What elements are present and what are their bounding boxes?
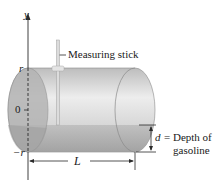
- length-dimension: [29, 152, 135, 170]
- gasoline-tank-diagram: y r 0 −r Measuring stick L d = Depth of …: [0, 0, 219, 182]
- tick-label-neg-r: −r: [13, 146, 25, 158]
- length-label: L: [74, 154, 81, 169]
- arrow-down-icon: [149, 146, 153, 151]
- tick-label-zero: 0: [15, 103, 21, 115]
- tick-label-r: r: [19, 62, 23, 74]
- y-axis-label: y: [24, 8, 29, 20]
- depth-variable-label: d: [155, 131, 161, 143]
- depth-description-line2: gasoline: [173, 144, 210, 156]
- measuring-stick-label: Measuring stick: [68, 48, 139, 60]
- arrow-right-icon: [129, 159, 134, 163]
- arrow-left-icon: [29, 159, 34, 163]
- depth-description: = Depth of: [164, 131, 212, 143]
